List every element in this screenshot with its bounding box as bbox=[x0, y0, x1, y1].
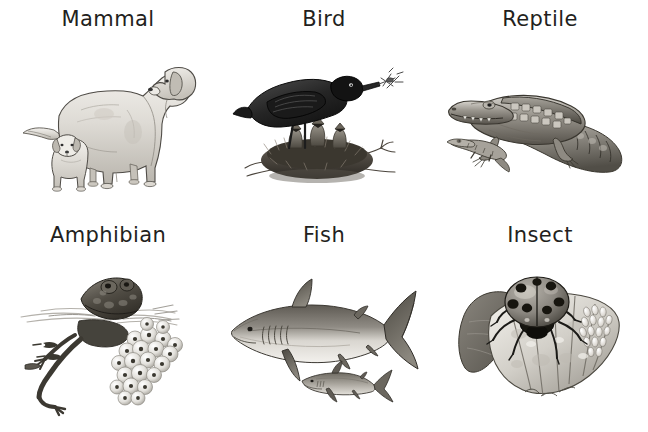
illustration-amphibian bbox=[0, 246, 216, 432]
cell-label-amphibian: Amphibian bbox=[50, 225, 166, 246]
cell-mammal: Mammal bbox=[0, 0, 216, 216]
blackbird-with-chicks-icon bbox=[231, 44, 417, 202]
cell-label-fish: Fish bbox=[303, 225, 345, 246]
ladybird-on-leaf-icon bbox=[447, 264, 633, 414]
cell-insect: Insect bbox=[432, 216, 648, 432]
cell-amphibian: Amphibian bbox=[0, 216, 216, 432]
illustration-mammal bbox=[0, 30, 216, 216]
animal-groups-poster: Mammal bbox=[0, 0, 648, 432]
cell-label-reptile: Reptile bbox=[502, 9, 578, 30]
cell-reptile: Reptile bbox=[432, 0, 648, 216]
illustration-fish bbox=[216, 246, 432, 432]
cell-label-bird: Bird bbox=[302, 9, 345, 30]
illustration-insect bbox=[432, 246, 648, 432]
cell-bird: Bird bbox=[216, 0, 432, 216]
illustration-reptile bbox=[432, 30, 648, 216]
cell-fish: Fish bbox=[216, 216, 432, 432]
cell-label-insect: Insect bbox=[507, 225, 573, 246]
dog-with-puppy-icon bbox=[15, 44, 201, 202]
poster-grid: Mammal bbox=[0, 0, 648, 432]
frog-with-frogspawn-icon bbox=[13, 259, 203, 419]
illustration-bird bbox=[216, 30, 432, 216]
shark-with-young-icon bbox=[226, 269, 422, 409]
cell-label-mammal: Mammal bbox=[61, 9, 154, 30]
crocodile-with-hatchling-icon bbox=[445, 48, 635, 198]
